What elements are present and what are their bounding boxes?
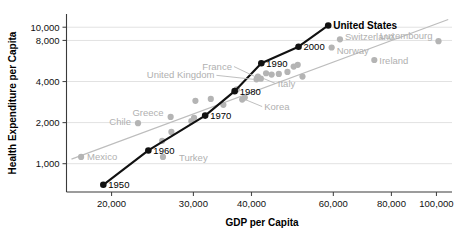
data-point bbox=[329, 44, 335, 50]
country-label: Norway bbox=[337, 45, 369, 56]
series-label: 1960 bbox=[153, 145, 174, 156]
y-tick-label: 8,000 bbox=[36, 35, 60, 46]
chart-container: 20,00030,00040,00060,00080,000100,000 1,… bbox=[0, 0, 457, 234]
leader-line bbox=[245, 100, 262, 107]
data-point bbox=[231, 88, 238, 95]
series-label: 1990 bbox=[266, 58, 287, 69]
x-axis-ticks: 20,00030,00040,00060,00080,000100,000 bbox=[97, 192, 454, 209]
series-label: 1950 bbox=[108, 179, 129, 190]
country-label: Ireland bbox=[379, 55, 408, 66]
data-point bbox=[295, 43, 302, 50]
data-point bbox=[202, 112, 209, 119]
data-point bbox=[135, 120, 141, 126]
country-label: Turkey bbox=[179, 152, 208, 163]
data-point bbox=[325, 22, 332, 29]
data-point bbox=[299, 73, 305, 79]
y-tick-label: 1,000 bbox=[36, 158, 60, 169]
data-point bbox=[258, 60, 265, 67]
data-point bbox=[263, 70, 269, 76]
series-label: 2000 bbox=[304, 41, 325, 52]
y-tick-label: 2,000 bbox=[36, 117, 60, 128]
country-label: Chile bbox=[109, 116, 131, 127]
country-label: France bbox=[202, 61, 232, 72]
x-tick-label: 40,000 bbox=[237, 198, 266, 209]
series-label: United States bbox=[333, 20, 397, 31]
data-point bbox=[145, 147, 152, 154]
x-tick-label: 30,000 bbox=[179, 198, 208, 209]
data-point bbox=[371, 57, 377, 63]
data-point bbox=[168, 114, 174, 120]
y-tick-label: 4,000 bbox=[36, 76, 60, 87]
scatter-plot: 20,00030,00040,00060,00080,000100,000 1,… bbox=[0, 0, 457, 234]
y-axis-title: Health Expenditure per Capita bbox=[7, 31, 18, 174]
series-label: 1980 bbox=[240, 86, 261, 97]
series-label: 1970 bbox=[210, 110, 231, 121]
country-label: Mexico bbox=[87, 151, 117, 162]
data-point bbox=[208, 96, 214, 102]
data-point bbox=[258, 76, 264, 82]
y-tick-label: 10,000 bbox=[30, 22, 59, 33]
data-point bbox=[284, 69, 290, 75]
country-label: Korea bbox=[264, 101, 290, 112]
country-label: Italy bbox=[278, 78, 296, 89]
country-label: Greece bbox=[132, 107, 163, 118]
x-tick-label: 20,000 bbox=[97, 198, 126, 209]
x-tick-label: 80,000 bbox=[377, 198, 406, 209]
data-point bbox=[276, 71, 282, 77]
data-point bbox=[269, 71, 275, 77]
x-axis-title: GDP per Capita bbox=[225, 217, 299, 228]
data-point bbox=[100, 182, 107, 189]
x-tick-label: 60,000 bbox=[319, 198, 348, 209]
data-point bbox=[192, 98, 198, 104]
data-point bbox=[337, 36, 343, 42]
y-axis-ticks: 1,0002,0004,0008,00010,000 bbox=[30, 22, 66, 169]
country-label: Luxembourg bbox=[380, 30, 433, 41]
data-point bbox=[78, 154, 84, 160]
other-country-labels: MexicoChileTurkeyGreeceKoreaUnited Kingd… bbox=[87, 30, 432, 163]
x-tick-label: 100,000 bbox=[419, 198, 453, 209]
data-point bbox=[295, 62, 301, 68]
leader-line bbox=[234, 67, 255, 77]
data-point bbox=[435, 38, 441, 44]
